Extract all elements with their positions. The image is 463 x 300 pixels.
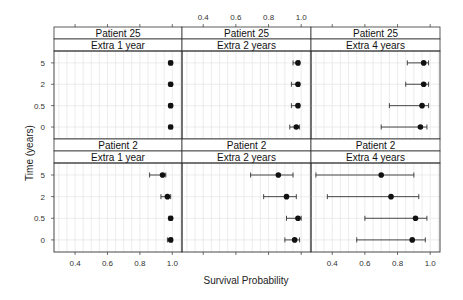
data-point — [295, 60, 301, 66]
data-point — [378, 172, 384, 178]
strip-label-extra: Extra 1 year — [91, 40, 146, 51]
x-tick-label: 0.4 — [198, 13, 210, 22]
strip-label-extra: Extra 1 year — [91, 152, 146, 163]
data-point — [168, 215, 174, 221]
data-point — [284, 194, 290, 200]
data-point — [168, 81, 174, 87]
panel-border — [182, 163, 311, 252]
data-point — [295, 81, 301, 87]
data-point — [168, 103, 174, 109]
x-tick-label: 0.8 — [392, 259, 404, 268]
panel-patient-25-extra-1-year: Patient 25Extra 1 year520.50 — [34, 24, 182, 139]
y-tick-label: 2 — [41, 80, 46, 89]
x-tick-label: 0.6 — [230, 13, 242, 22]
data-point — [294, 124, 300, 130]
data-point — [168, 124, 174, 130]
data-point — [276, 172, 282, 178]
data-point — [292, 237, 298, 243]
strip-label-patient: Patient 2 — [98, 140, 138, 151]
strip-label-patient: Patient 25 — [95, 28, 140, 39]
data-point — [168, 60, 174, 66]
data-point — [295, 215, 301, 221]
survival-probability-trellis-chart: Patient 25Extra 1 year520.50Patient 25Ex… — [0, 0, 463, 300]
data-point — [413, 215, 419, 221]
data-point — [165, 194, 171, 200]
strip-label-patient: Patient 25 — [353, 28, 398, 39]
panel-patient-2-extra-4-years: Patient 2Extra 4 years0.40.60.81.0 — [311, 139, 440, 268]
x-tick-label: 0.8 — [263, 13, 275, 22]
y-tick-label: 0 — [41, 236, 46, 245]
y-axis-title: Time (years) — [24, 125, 35, 181]
x-tick-label: 0.4 — [70, 259, 82, 268]
y-tick-label: 0.5 — [34, 214, 46, 223]
panel-border — [182, 51, 311, 139]
data-point — [160, 172, 166, 178]
panel-patient-25-extra-4-years: Patient 25Extra 4 years — [311, 24, 440, 139]
y-tick-label: 5 — [41, 171, 46, 180]
data-point — [409, 237, 415, 243]
x-axis-title: Survival Probability — [203, 275, 288, 286]
strip-label-extra: Extra 2 years — [217, 40, 276, 51]
panel-border — [311, 163, 440, 252]
data-point — [421, 81, 427, 87]
data-point — [418, 124, 424, 130]
panel-border — [54, 51, 182, 139]
x-tick-label: 0.6 — [359, 259, 371, 268]
y-tick-label: 2 — [41, 193, 46, 202]
strip-label-patient: Patient 2 — [356, 140, 396, 151]
panels-group: Patient 25Extra 1 year520.50Patient 25Ex… — [34, 13, 440, 268]
strip-label-extra: Extra 4 years — [346, 40, 405, 51]
data-point — [168, 237, 174, 243]
x-tick-label: 1.0 — [425, 259, 437, 268]
x-tick-label: 1.0 — [296, 13, 308, 22]
data-point — [419, 103, 425, 109]
strip-label-extra: Extra 2 years — [217, 152, 276, 163]
y-tick-label: 5 — [41, 59, 46, 68]
strip-label-patient: Patient 25 — [224, 28, 269, 39]
data-point — [295, 103, 301, 109]
panel-patient-2-extra-2-years: Patient 2Extra 2 years — [182, 139, 311, 255]
panel-patient-25-extra-2-years: Patient 25Extra 2 years0.40.60.81.0 — [182, 13, 311, 139]
x-tick-label: 0.6 — [102, 259, 114, 268]
strip-label-extra: Extra 4 years — [346, 152, 405, 163]
x-tick-label: 1.0 — [167, 259, 179, 268]
y-tick-label: 0.5 — [34, 102, 46, 111]
y-tick-label: 0 — [41, 123, 46, 132]
data-point — [421, 60, 427, 66]
data-point — [388, 194, 394, 200]
panel-patient-2-extra-1-year: Patient 2Extra 1 year520.500.40.60.81.0 — [34, 139, 182, 268]
x-tick-label: 0.4 — [327, 259, 339, 268]
strip-label-patient: Patient 2 — [227, 140, 267, 151]
x-tick-label: 0.8 — [134, 259, 146, 268]
